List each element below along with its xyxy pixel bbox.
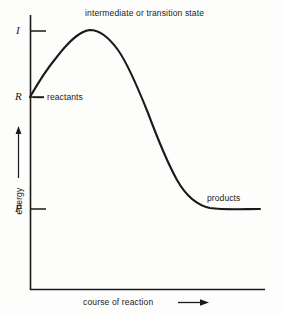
x-axis-title: course of reaction: [83, 298, 153, 307]
products-label: products: [207, 194, 240, 203]
tick-label-R: R: [15, 91, 22, 102]
y-axis-title: energy: [15, 188, 24, 215]
energy-axis-arrow-head: [16, 126, 22, 134]
reactants-label: reactants: [47, 93, 83, 102]
reaction-energy-diagram: I R P intermediate or transition state r…: [0, 0, 282, 316]
energy-profile-curve: [30, 30, 260, 209]
tick-label-I: I: [16, 25, 20, 36]
transition-state-label: intermediate or transition state: [85, 9, 204, 18]
course-axis-arrow-head: [200, 299, 209, 306]
plot-canvas: [0, 0, 282, 316]
